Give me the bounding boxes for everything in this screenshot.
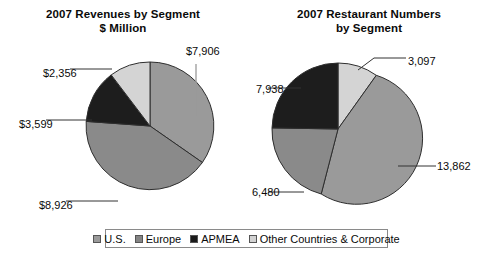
pie-chart-figure: 2007 Revenues by Segment $ Million <box>0 0 492 264</box>
pie-revenues <box>0 44 246 224</box>
legend-item-apmea[interactable]: APMEA <box>190 233 240 245</box>
callout-other: 3,097 <box>408 55 436 67</box>
pie-restaurants <box>246 44 492 224</box>
chart-title-line1: 2007 Restaurant Numbers <box>297 8 441 20</box>
leader-line-other <box>358 58 406 70</box>
legend-item-other[interactable]: Other Countries & Corporate <box>249 233 400 245</box>
callout-other: $2,356 <box>43 67 77 79</box>
chart-title-restaurants: 2007 Restaurant Numbers by Segment <box>246 8 492 35</box>
chart-title-line2: by Segment <box>246 22 492 36</box>
legend-swatch-europe <box>135 235 143 243</box>
callout-europe: 6,480 <box>252 186 280 198</box>
legend-swatch-other <box>249 235 257 243</box>
chart-title-revenues: 2007 Revenues by Segment $ Million <box>0 8 246 35</box>
chart-title-line1: 2007 Revenues by Segment <box>46 8 200 20</box>
legend-label-apmea: APMEA <box>201 233 240 245</box>
legend-label-other: Other Countries & Corporate <box>260 233 400 245</box>
callout-us: $7,906 <box>186 45 220 57</box>
chart-panel-revenues: 2007 Revenues by Segment $ Million <box>0 0 246 228</box>
chart-panel-restaurants: 2007 Restaurant Numbers by Segment <box>246 0 492 228</box>
pie-restaurants-svg <box>246 44 492 224</box>
callout-apmea: $3,599 <box>19 118 53 130</box>
chart-legend: U.S. Europe APMEA Other Countries & Corp… <box>105 229 388 248</box>
legend-swatch-us <box>93 235 101 243</box>
legend-swatch-apmea <box>190 235 198 243</box>
pie-slice-apmea <box>272 63 338 129</box>
legend-label-us: U.S. <box>104 233 125 245</box>
callout-europe: $8,926 <box>39 199 73 211</box>
callout-us: 13,862 <box>437 160 471 172</box>
legend-item-europe[interactable]: Europe <box>135 233 181 245</box>
chart-title-line2: $ Million <box>0 22 246 36</box>
callout-apmea: 7,938 <box>256 83 284 95</box>
legend-item-us[interactable]: U.S. <box>93 233 125 245</box>
pie-revenues-svg <box>0 44 246 224</box>
legend-label-europe: Europe <box>146 233 181 245</box>
